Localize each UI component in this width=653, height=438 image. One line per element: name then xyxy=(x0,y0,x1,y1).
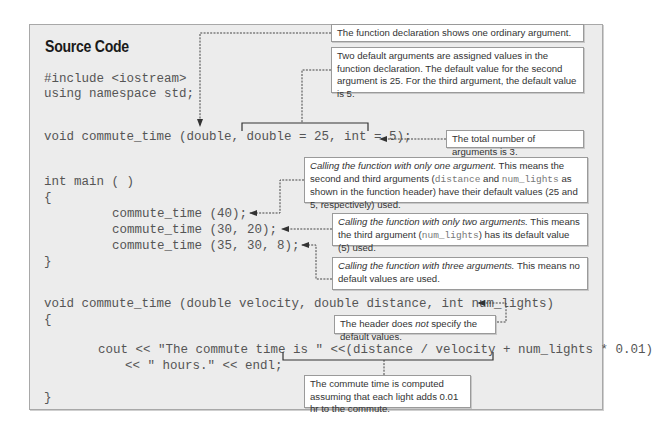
bracket-default-arguments xyxy=(242,123,368,131)
bracket-commute-expression xyxy=(283,352,493,360)
arrow-one-argument-call xyxy=(250,180,304,213)
connector-default-arguments xyxy=(302,70,331,123)
arrow-header-no-defaults xyxy=(478,303,506,322)
arrow-three-argument-call xyxy=(302,245,332,279)
arrow-ordinary-argument xyxy=(200,33,331,126)
